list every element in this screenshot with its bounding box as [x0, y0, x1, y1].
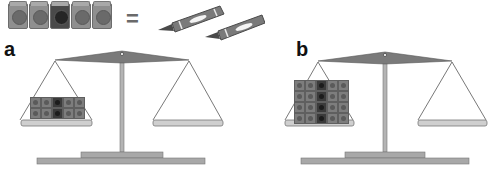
linking-cube — [71, 3, 91, 29]
cube — [41, 108, 52, 119]
crayon-icon — [205, 15, 265, 40]
linking-cube — [8, 3, 28, 29]
cube — [41, 97, 52, 108]
equals-sign: = — [126, 6, 139, 32]
cube-dark — [316, 80, 327, 91]
cube-dark — [52, 108, 63, 119]
linking-cube — [29, 3, 49, 29]
cube — [327, 102, 338, 113]
cube — [338, 102, 349, 113]
left-pan-a — [21, 120, 92, 126]
cube — [305, 80, 316, 91]
cube — [294, 113, 305, 124]
linking-cube-strip — [8, 3, 113, 29]
cube — [74, 97, 85, 108]
cube — [338, 91, 349, 102]
right-pan-a — [153, 120, 223, 126]
cube — [63, 108, 74, 119]
cube — [338, 113, 349, 124]
cube — [327, 113, 338, 124]
cube — [305, 91, 316, 102]
cube — [294, 80, 305, 91]
cube — [294, 102, 305, 113]
cube-block-b — [294, 80, 349, 124]
cube-block-a — [30, 97, 85, 119]
cube — [30, 97, 41, 108]
crayon-icon — [158, 6, 224, 32]
crayons-illustration — [150, 0, 265, 45]
cube — [327, 80, 338, 91]
cube — [338, 80, 349, 91]
cube-dark — [316, 102, 327, 113]
cube — [327, 91, 338, 102]
cube — [74, 108, 85, 119]
cube — [294, 91, 305, 102]
cube-dark — [52, 97, 63, 108]
linking-cube — [92, 3, 112, 29]
linking-cube-dark — [50, 3, 70, 29]
cube — [63, 97, 74, 108]
cube — [30, 108, 41, 119]
cube — [305, 102, 316, 113]
cube-dark — [316, 91, 327, 102]
right-pan-b — [418, 120, 487, 126]
cube — [305, 113, 316, 124]
cube-dark — [316, 113, 327, 124]
